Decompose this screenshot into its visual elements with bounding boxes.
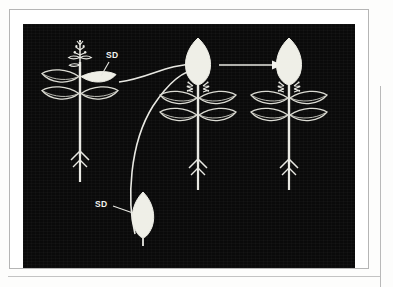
plant-donor <box>42 40 118 182</box>
plant-receptor-1 <box>160 38 236 190</box>
right-apical-leaf <box>276 38 301 85</box>
plant-receptor-2 <box>251 38 327 190</box>
figure-root: SD <box>0 0 393 287</box>
illustration-panel: SD <box>23 24 355 268</box>
detached-sd-leaf <box>132 192 153 238</box>
diagram-canvas: SD <box>23 24 355 268</box>
sd-label-detached-group: SD <box>95 199 133 213</box>
sd-label-donor: SD <box>106 50 118 60</box>
detached-sd-leaf-group <box>132 192 153 246</box>
donor-shaded-leaf-sd <box>81 72 116 82</box>
sd-label-detached: SD <box>95 199 107 209</box>
sd-label-detached-leader <box>113 206 133 213</box>
middle-apical-leaf <box>185 38 210 85</box>
page-bottom-rule <box>8 276 380 277</box>
page-right-rule <box>380 86 381 287</box>
